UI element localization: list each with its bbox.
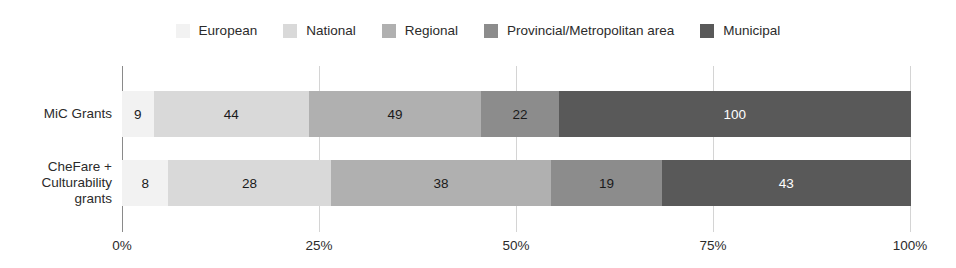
- legend-item[interactable]: Provincial/Metropolitan area: [484, 24, 674, 38]
- x-axis-tick-label: 50%: [502, 238, 529, 253]
- bar-segment[interactable]: 28: [168, 160, 330, 206]
- x-axis-tick-labels: 0%25%50%75%100%: [122, 238, 911, 258]
- y-axis-category-label-line: Culturability: [4, 175, 112, 191]
- legend-swatch-icon: [283, 24, 297, 38]
- legend-item[interactable]: Municipal: [700, 24, 780, 38]
- bar-segment[interactable]: 43: [662, 160, 911, 206]
- legend-item-label: Municipal: [723, 24, 780, 38]
- bar-segment-value-label: 8: [141, 176, 149, 191]
- legend-item-label: National: [306, 24, 356, 38]
- stacked-bar-chart: EuropeanNationalRegionalProvincial/Metro…: [0, 0, 956, 268]
- x-axis-tick-label: 25%: [305, 238, 332, 253]
- bar-segment-value-label: 28: [242, 176, 257, 191]
- x-axis-tick-label: 100%: [893, 238, 928, 253]
- bar-segment[interactable]: 49: [309, 91, 482, 137]
- bar-row: 9444922100: [122, 91, 911, 137]
- legend-swatch-icon: [382, 24, 396, 38]
- bar-segment-value-label: 43: [779, 176, 794, 191]
- legend-swatch-icon: [484, 24, 498, 38]
- y-axis-category-label-line: grants: [4, 191, 112, 207]
- bar-segment-value-label: 100: [724, 107, 747, 122]
- legend-item[interactable]: European: [176, 24, 258, 38]
- legend-item[interactable]: National: [283, 24, 356, 38]
- bar-segment-value-label: 38: [434, 176, 449, 191]
- bar-segment-value-label: 49: [387, 107, 402, 122]
- bar-segment-value-label: 22: [512, 107, 527, 122]
- bar-segment[interactable]: 22: [481, 91, 558, 137]
- legend-item-label: Regional: [405, 24, 458, 38]
- y-axis-category-label: CheFare +Culturabilitygrants: [4, 159, 112, 207]
- bar-segment[interactable]: 100: [559, 91, 911, 137]
- chart-legend: EuropeanNationalRegionalProvincial/Metro…: [0, 24, 956, 38]
- x-axis-tick-label: 0%: [112, 238, 132, 253]
- plot-area: 9444922100828381943: [122, 66, 911, 232]
- bar-segment-value-label: 9: [134, 107, 142, 122]
- y-axis-category-labels: MiC GrantsCheFare +Culturabilitygrants: [0, 66, 112, 232]
- bar-segment[interactable]: 38: [331, 160, 551, 206]
- legend-swatch-icon: [176, 24, 190, 38]
- legend-item-label: European: [199, 24, 258, 38]
- legend-item-label: Provincial/Metropolitan area: [507, 24, 674, 38]
- y-axis-category-label-line: MiC Grants: [4, 106, 112, 122]
- legend-item[interactable]: Regional: [382, 24, 458, 38]
- bar-segment[interactable]: 8: [122, 160, 168, 206]
- bar-segment-value-label: 19: [599, 176, 614, 191]
- bar-segment[interactable]: 9: [122, 91, 154, 137]
- bar-row: 828381943: [122, 160, 911, 206]
- legend-swatch-icon: [700, 24, 714, 38]
- x-axis-tick-label: 75%: [699, 238, 726, 253]
- y-axis-category-label-line: CheFare +: [4, 159, 112, 175]
- y-axis-category-label: MiC Grants: [4, 106, 112, 122]
- bar-segment[interactable]: 44: [154, 91, 309, 137]
- bar-segment-value-label: 44: [224, 107, 239, 122]
- bar-segment[interactable]: 19: [551, 160, 661, 206]
